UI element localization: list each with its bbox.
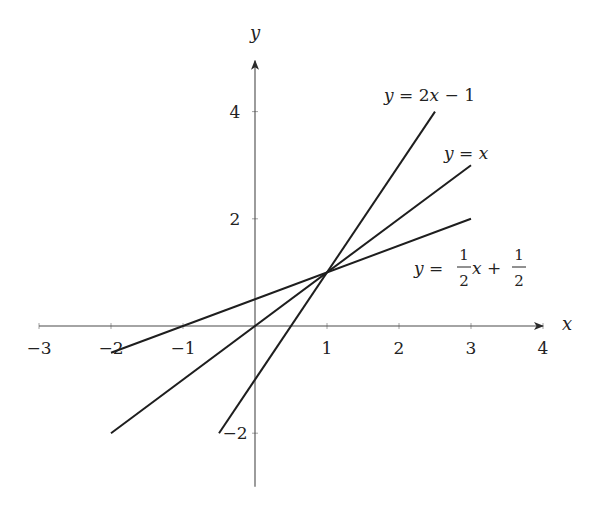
series-line — [111, 219, 471, 353]
x-tick-label: −1 — [170, 338, 195, 358]
x-tick-label: 3 — [466, 338, 477, 358]
svg-text:x +: x + — [472, 258, 501, 278]
svg-text:y =: y = — [413, 258, 443, 278]
eq1-rest: − 1 — [439, 85, 475, 105]
eq3-eq: = — [424, 258, 444, 278]
x-tick-label: 1 — [322, 338, 333, 358]
x-tick-label: −3 — [26, 338, 51, 358]
label-y-eq-2x-minus-1: y = 2x − 1 — [383, 85, 475, 105]
y-tick-label: 4 — [230, 102, 241, 122]
eq3-num2: 1 — [514, 246, 524, 264]
eq3-var: x — [472, 258, 482, 278]
eq1-lhs: y — [383, 85, 394, 105]
label-y-eq-half-x-plus-half: y = 1 2 x + 1 2 — [413, 246, 526, 290]
eq1-var: x — [429, 85, 439, 105]
eq3-den2: 2 — [514, 272, 524, 290]
eq1-eq: = 2 — [394, 85, 430, 105]
eq3-plus: + — [482, 258, 502, 278]
label-y-eq-x: y = x — [443, 143, 489, 163]
eq3-num: 1 — [459, 246, 469, 264]
eq2-lhs: y — [443, 143, 454, 163]
x-axis-label: x — [562, 313, 572, 334]
x-tick-label: 4 — [538, 338, 549, 358]
y-tick-label: −2 — [222, 423, 247, 443]
eq2-eq: = — [454, 143, 479, 163]
x-tick-label: 2 — [394, 338, 405, 358]
x-tick-label: −2 — [98, 338, 123, 358]
eq3-lhs: y — [413, 258, 424, 278]
eq3-den: 2 — [459, 272, 469, 290]
y-tick-label: 2 — [230, 209, 241, 229]
series-line — [111, 165, 471, 433]
eq2-var: x — [479, 143, 489, 163]
y-axis-label: y — [249, 22, 261, 43]
line-chart: −3−2−11234−224 x y y = 2x − 1 y = x y = … — [0, 0, 599, 506]
